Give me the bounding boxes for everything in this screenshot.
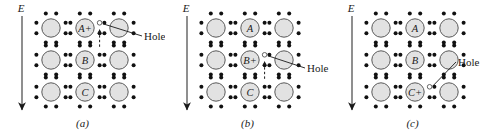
- atom-label: B: [82, 55, 89, 66]
- atom-label: B: [412, 55, 419, 66]
- atom-label: C: [246, 87, 254, 98]
- atom-plain: [110, 83, 128, 101]
- atom-plain: [110, 51, 128, 69]
- hole-conduction-figure: EA+BCHole(a)EAB+CHole(b)EABC+Hole(c): [0, 0, 495, 131]
- atom-cores: A+BC: [42, 19, 128, 101]
- atom-B-plus: B+: [241, 51, 259, 69]
- atom-C-plus: C+: [406, 83, 424, 101]
- field-label-E: E: [17, 2, 25, 14]
- lattice-diagram-c: EABC+Hole: [330, 0, 495, 131]
- panel-c: EABC+Hole(c): [330, 0, 495, 131]
- atom-C: C: [76, 83, 94, 101]
- electric-field-arrow: E: [182, 2, 190, 110]
- atom-B: B: [406, 51, 424, 69]
- atom-plain: [440, 51, 458, 69]
- hole-label: Hole: [458, 56, 480, 68]
- atom-C: C: [241, 83, 259, 101]
- hole-marker: [427, 85, 432, 100]
- atom-A-plus: A+: [76, 19, 94, 37]
- atom-plain: [42, 83, 60, 101]
- atom-plain: [372, 51, 390, 69]
- atom-A: A: [406, 19, 424, 37]
- atom-plain: [440, 83, 458, 101]
- panel-b: EAB+CHole(b): [165, 0, 330, 131]
- atom-plain: [207, 83, 225, 101]
- atom-plain: [42, 51, 60, 69]
- field-label-E: E: [182, 2, 190, 14]
- atom-plain: [110, 19, 128, 37]
- atom-plain: [207, 51, 225, 69]
- lattice-diagram-b: EAB+CHole: [165, 0, 330, 131]
- atom-label: C+: [408, 87, 422, 98]
- hole-label: Hole: [144, 30, 165, 42]
- atom-plain: [275, 83, 293, 101]
- hole-label: Hole: [307, 62, 329, 74]
- atom-B: B: [76, 51, 94, 69]
- atom-label: A: [246, 23, 254, 34]
- atom-label: C: [81, 87, 89, 98]
- atom-plain: [440, 19, 458, 37]
- atom-label: A+: [77, 23, 92, 34]
- electric-field-arrow: E: [347, 2, 355, 110]
- atom-cores: ABC+: [372, 19, 458, 101]
- panel-caption-a: (a): [0, 117, 165, 129]
- atom-plain: [207, 19, 225, 37]
- atom-A: A: [241, 19, 259, 37]
- lattice-diagram-a: EA+BCHole: [0, 0, 165, 131]
- atom-plain: [275, 51, 293, 69]
- atom-plain: [275, 19, 293, 37]
- panel-caption-b: (b): [165, 117, 330, 129]
- panel-a: EA+BCHole(a): [0, 0, 165, 131]
- atom-label: A: [411, 23, 419, 34]
- panel-caption-c: (c): [330, 117, 495, 129]
- atom-plain: [372, 83, 390, 101]
- atom-label: B+: [243, 55, 257, 66]
- atom-plain: [42, 19, 60, 37]
- electric-field-arrow: E: [17, 2, 25, 110]
- atom-plain: [372, 19, 390, 37]
- field-label-E: E: [347, 2, 355, 14]
